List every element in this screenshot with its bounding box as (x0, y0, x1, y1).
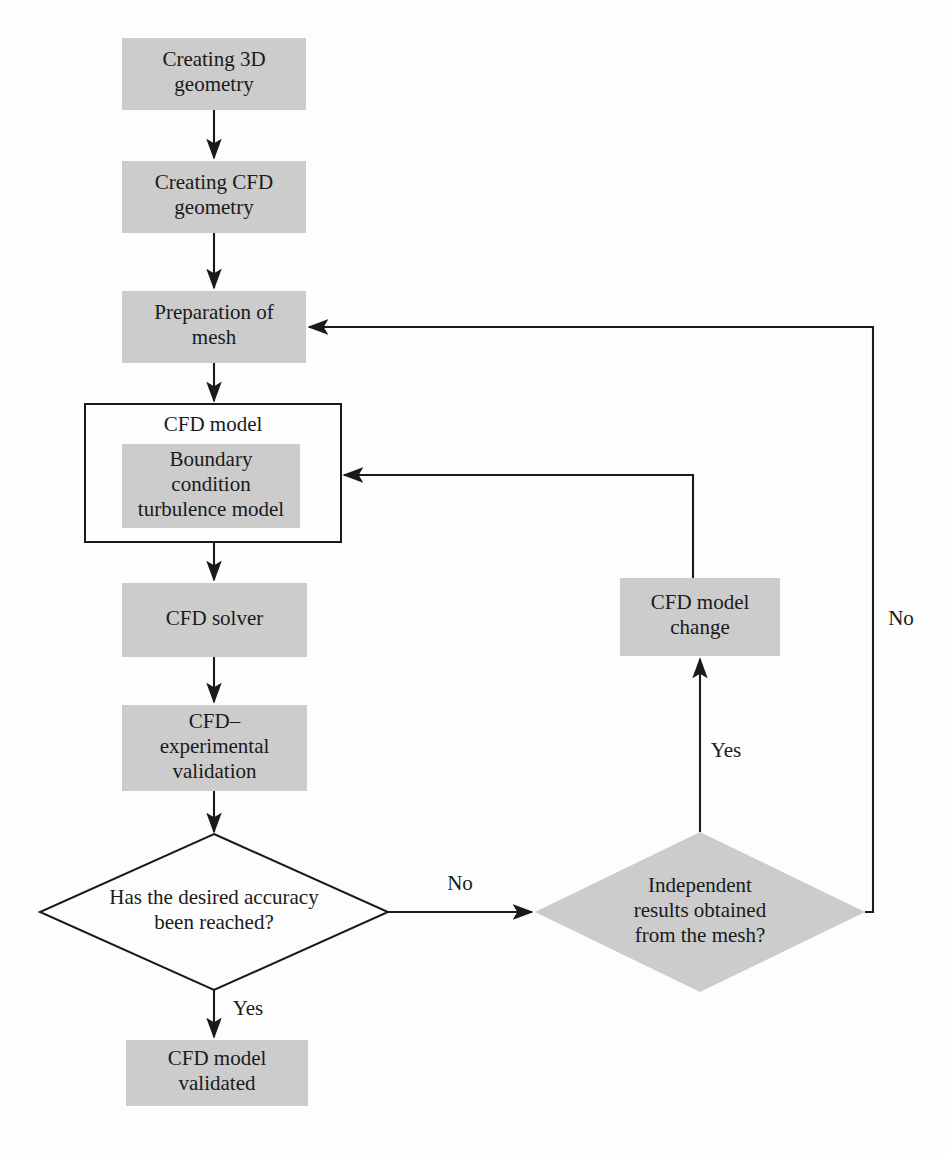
node-preparation-of-mesh: Preparation ofmesh (122, 291, 306, 363)
node-label-line: Creating 3D (162, 47, 265, 71)
node-has-the-desired-accuracy-been-reached: Has the desired accuracybeen reached? (40, 834, 388, 990)
node-label-line: validated (179, 1071, 256, 1095)
nodes-layer: Creating 3DgeometryCreating CFDgeometryP… (40, 38, 865, 1106)
flow-edge (309, 327, 873, 912)
flowchart-canvas: Creating 3DgeometryCreating CFDgeometryP… (0, 0, 946, 1153)
node-label-line: Independent (648, 873, 752, 897)
node-label-line: geometry (174, 195, 254, 219)
node-boundary-condition-turbulence-model: Boundaryconditionturbulence model (122, 444, 300, 528)
node-label-line: CFD model (168, 1046, 267, 1070)
node-label-line: validation (173, 759, 257, 783)
node-label-line: Boundary (170, 447, 253, 471)
node-creating-cfd-geometry: Creating CFDgeometry (122, 161, 306, 233)
node-label-line: geometry (174, 72, 254, 96)
node-cfd-solver: CFD solver (122, 583, 307, 657)
node-label-line: from the mesh? (635, 923, 766, 947)
flowchart-figure: Creating 3DgeometryCreating CFDgeometryP… (0, 0, 946, 1153)
node-label-line: Preparation of (154, 300, 274, 324)
node-label-line: turbulence model (138, 497, 285, 521)
node-label-line: Creating CFD (155, 170, 273, 194)
edge-label: No (888, 606, 914, 630)
node-cfd-model-change: CFD modelchange (620, 578, 780, 656)
node-independent-results-obtained-from-the-mesh: Independentresults obtainedfrom the mesh… (535, 832, 865, 992)
node-label-line: been reached? (154, 910, 274, 934)
edge-label: Yes (711, 738, 742, 762)
node-label-line: condition (171, 472, 251, 496)
node-cfd-model-validated: CFD modelvalidated (126, 1040, 308, 1106)
edge-label: Yes (233, 996, 264, 1020)
node-label-line: CFD– (189, 709, 241, 733)
node-label-line: CFD solver (166, 606, 263, 630)
node-label-line: CFD model (651, 590, 750, 614)
edge-labels-layer: NoYesYesNo (233, 606, 914, 1020)
node-label-line: CFD model (164, 412, 263, 436)
node-creating-3d-geometry: Creating 3Dgeometry (122, 38, 306, 110)
node-label-line: results obtained (634, 898, 767, 922)
node-cfd-experimental-validation: CFD–experimentalvalidation (122, 705, 307, 791)
node-label-line: change (670, 615, 729, 639)
node-label-line: mesh (192, 325, 237, 349)
edge-label: No (447, 871, 473, 895)
node-label-line: Has the desired accuracy (109, 885, 319, 909)
flow-edge (344, 475, 693, 578)
node-label-line: experimental (160, 734, 270, 758)
